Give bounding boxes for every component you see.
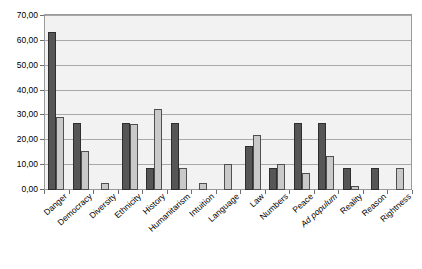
y-axis-tick-label: 50,00 <box>17 61 38 70</box>
bar-group <box>289 14 314 190</box>
y-axis-tick-label: 40,00 <box>17 86 38 95</box>
bar <box>294 123 302 190</box>
y-axis-tick-label: 0,00 <box>21 185 38 194</box>
bar <box>371 168 379 190</box>
bars-layer <box>44 14 412 190</box>
bar <box>179 168 187 190</box>
bar-group <box>314 14 339 190</box>
y-axis-tick-label: 30,00 <box>17 110 38 119</box>
bar <box>302 173 310 190</box>
bar-group <box>387 14 412 190</box>
bar-group <box>118 14 143 190</box>
bar <box>56 117 64 190</box>
bar <box>396 168 404 190</box>
x-axis-tick-label: Law <box>248 192 266 209</box>
bar-group <box>338 14 363 190</box>
bar-group <box>167 14 192 190</box>
bar-group <box>240 14 265 190</box>
bar <box>101 183 109 190</box>
y-axis-tick-label: 10,00 <box>17 160 38 169</box>
bar-group <box>142 14 167 190</box>
bar <box>253 135 261 190</box>
clipped-header-text <box>0 0 422 7</box>
bar-chart: 0,0010,0020,0030,0040,0050,0060,0070,00 … <box>0 0 422 269</box>
y-axis-tick-label: 60,00 <box>17 36 38 45</box>
bar <box>154 109 162 190</box>
bar-group <box>44 14 69 190</box>
bar-group <box>191 14 216 190</box>
bar <box>326 156 334 190</box>
y-axis-tick-label: 70,00 <box>17 11 38 20</box>
x-axis-labels: DangerDemocracyDiversityEthnicityHistory… <box>44 192 412 269</box>
bar <box>171 123 179 190</box>
y-axis-tick-label: 20,00 <box>17 135 38 144</box>
bar <box>318 123 326 190</box>
bar <box>224 164 232 190</box>
bar <box>199 183 207 190</box>
bar <box>81 151 89 190</box>
x-axis-tick-mark <box>412 190 413 194</box>
bar <box>269 168 277 190</box>
bar-group <box>93 14 118 190</box>
bar <box>277 164 285 190</box>
bar <box>122 123 130 190</box>
bar <box>130 124 138 190</box>
bar <box>146 168 154 190</box>
bar-group <box>216 14 241 190</box>
bar <box>343 168 351 190</box>
bar <box>48 32 56 190</box>
x-axis-tick-label: Ethnicity <box>113 192 143 220</box>
bar-group <box>69 14 94 190</box>
bar-group <box>363 14 388 190</box>
bar <box>245 146 253 190</box>
bar-group <box>265 14 290 190</box>
bar <box>73 123 81 190</box>
y-axis: 0,0010,0020,0030,0040,0050,0060,0070,00 <box>0 14 44 190</box>
